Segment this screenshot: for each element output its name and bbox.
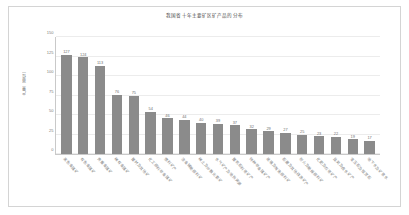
bar[interactable] (112, 95, 122, 154)
bar-value-label: 127 (63, 49, 70, 54)
bar-group: 27石墨及其他碳质矿产 (277, 37, 294, 154)
bar-group: 29玻璃及陶瓷原料矿 (260, 37, 277, 154)
bar-value-label: 40 (199, 117, 203, 122)
bar-value-label: 37 (233, 120, 237, 125)
x-axis-category-label: 燃料矿产 (164, 156, 179, 171)
plot-area: 0255075100125150 127黑色金属矿124有色金属矿113贵重金属… (55, 37, 380, 155)
x-axis-category-label: 有色金属矿 (80, 156, 98, 174)
bar-value-label: 32 (250, 124, 254, 129)
bar-group: 76稀有金属矿 (109, 37, 126, 154)
bar-group: 54化工原料非金属矿 (142, 37, 159, 154)
bar[interactable] (61, 55, 71, 154)
bar[interactable] (280, 133, 290, 154)
bar-value-label: 25 (300, 129, 304, 134)
bar[interactable] (348, 139, 358, 154)
bar-value-label: 124 (80, 52, 87, 57)
bar-value-label: 46 (165, 113, 169, 118)
bar[interactable] (213, 124, 223, 154)
y-axis-tick-label: 100 (47, 69, 54, 74)
x-axis-category-label: 稀有金属矿 (113, 156, 131, 174)
bar-value-label: 76 (115, 89, 119, 94)
bar-series: 127黑色金属矿124有色金属矿113贵重金属矿76稀有金属矿75建材及其他矿5… (56, 37, 380, 154)
bar-group: 46燃料矿产 (159, 37, 176, 154)
bar-group: 40稀土及分散元素矿 (193, 37, 210, 154)
chart-frame: 我国省十年主要矿区矿产品的分布 产量（单位） 0255075100125150 … (8, 6, 401, 207)
bar[interactable] (364, 141, 374, 154)
bar-value-label: 17 (367, 135, 371, 140)
bar[interactable] (179, 120, 189, 154)
y-axis-tick-label: 125 (47, 49, 54, 54)
bar-group: 39水气矿产及地热资源 (210, 37, 227, 154)
bar-value-label: 27 (283, 127, 287, 132)
bar-group: 113贵重金属矿 (92, 37, 109, 154)
bar[interactable] (314, 136, 324, 154)
bar[interactable] (230, 125, 240, 154)
bar-group: 25耐火及助熔原料矿 (294, 37, 311, 154)
y-axis-title: 产量（单位） (23, 69, 33, 95)
bar-value-label: 29 (266, 126, 270, 131)
bar-group: 127黑色金属矿 (58, 37, 75, 154)
x-axis-category-label: 贵重金属矿 (96, 156, 114, 174)
bar[interactable] (78, 57, 88, 154)
bar-group: 23化肥及农用矿产 (311, 37, 328, 154)
bar-group: 32特种非金属矿产 (243, 37, 260, 154)
y-axis-tick-label: 0 (51, 147, 53, 152)
x-axis-category-label: 黑色金属矿 (63, 156, 81, 174)
bar[interactable] (95, 66, 105, 154)
y-axis-tick-label: 25 (49, 127, 53, 132)
bar-value-label: 22 (334, 131, 338, 136)
bar-group: 19宝玉石及观赏石 (344, 37, 361, 154)
bar[interactable] (331, 137, 341, 154)
bar[interactable] (129, 96, 139, 155)
bar-value-label: 44 (182, 114, 186, 119)
bar[interactable] (297, 135, 307, 154)
bar-value-label: 39 (216, 118, 220, 123)
bar-group: 124有色金属矿 (75, 37, 92, 154)
y-axis-tick-label: 150 (47, 30, 54, 35)
bar[interactable] (246, 129, 256, 154)
bar-value-label: 19 (351, 134, 355, 139)
y-axis-tick-label: 75 (49, 88, 53, 93)
bar-group: 75建材及其他矿 (125, 37, 142, 154)
bar[interactable] (263, 131, 273, 154)
chart-title: 我国省十年主要矿区矿产品的分布 (9, 12, 400, 18)
bar-group: 44冶金辅助原料矿 (176, 37, 193, 154)
bar-group: 22盐类及卤水矿产 (328, 37, 345, 154)
bar-group: 37建筑石料用矿产 (226, 37, 243, 154)
y-axis-tick-label: 50 (49, 108, 53, 113)
bar[interactable] (145, 112, 155, 154)
bar[interactable] (196, 123, 206, 154)
bar-value-label: 113 (97, 60, 103, 65)
bar[interactable] (162, 118, 172, 154)
bar-value-label: 54 (148, 106, 152, 111)
bar-value-label: 75 (132, 90, 136, 95)
bar-group: 17地下水及矿泉水 (361, 37, 378, 154)
bar-value-label: 23 (317, 131, 321, 136)
